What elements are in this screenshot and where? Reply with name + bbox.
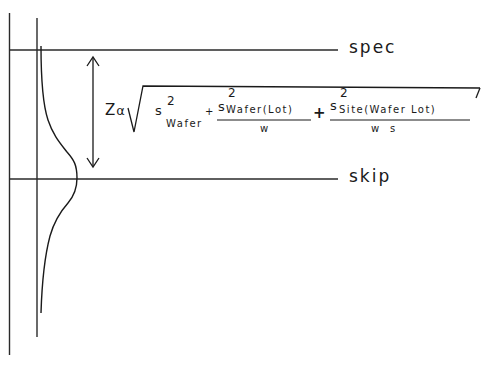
term2-exp: 2 — [228, 86, 236, 100]
term3-sub: Site(Wafer Lot) — [339, 104, 436, 115]
term2-sub: Wafer(Lot) — [226, 104, 293, 115]
term1-sub: Wafer — [166, 118, 203, 129]
term1-exp: 2 — [167, 94, 175, 108]
plus-2: + — [313, 104, 326, 122]
z-symbol: Z — [105, 101, 116, 119]
term2-base: s — [218, 99, 226, 114]
plus-1: + — [205, 106, 213, 117]
term3-denominator: w s — [371, 123, 397, 134]
alpha-symbol: α — [116, 103, 126, 118]
term2-denominator: w — [260, 123, 270, 134]
term3-exp: 2 — [340, 86, 348, 100]
z-alpha: Zα — [105, 101, 126, 119]
term1-base: s — [155, 103, 163, 118]
skip-label: skip — [349, 166, 391, 186]
spec-label: spec — [349, 37, 396, 57]
term3-base: s — [330, 98, 338, 113]
double-arrow-icon — [87, 57, 99, 167]
diagram-canvas — [0, 0, 490, 366]
